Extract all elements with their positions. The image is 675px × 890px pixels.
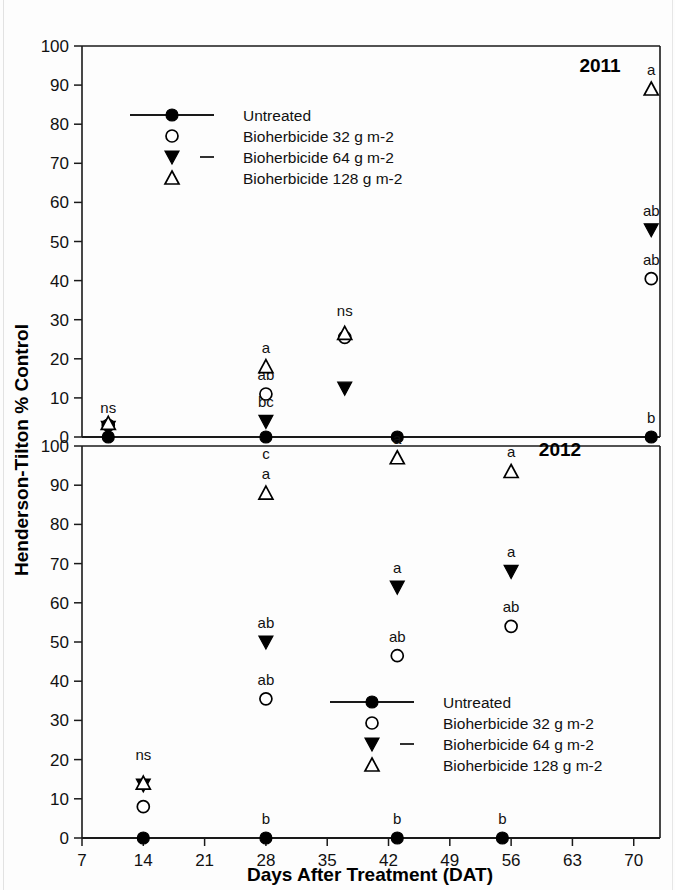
x-tick-label: 49 [440,851,459,870]
data-point [504,464,518,477]
significance-letter: ab [389,628,406,645]
x-tick-label: 28 [256,851,275,870]
data-point [645,273,657,285]
significance-letter: ab [643,202,660,219]
y-tick-label: 50 [50,233,69,252]
legend-item: Bioherbicide 128 g m-2 [165,170,402,187]
y-tick-label: 100 [41,37,69,56]
significance-letter: a [262,465,271,482]
panel-year-label-bottom: 2012 [539,439,581,460]
y-tick-label: 20 [50,751,69,770]
x-tick-label: 63 [563,851,582,870]
data-point [137,801,149,813]
significance-letter: ab [258,671,275,688]
y-tick-label: 70 [50,154,69,173]
legend-marker-open-circle [166,130,178,142]
legend-marker-open-circle [366,717,378,729]
legend-label: Bioherbicide 64 g m-2 [443,736,594,753]
data-point [260,832,272,844]
legend-marker-filled-circle [366,696,378,708]
data-point [644,224,658,237]
svg-text:Henderson-Tilton % Control: Henderson-Tilton % Control [11,324,32,576]
significance-letter: a [507,443,516,460]
y-tick-label: 10 [50,389,69,408]
legend-marker-open-triangle [165,171,179,184]
figure-right-border [672,0,673,890]
significance-letter: a [262,339,271,356]
x-tick-label: 42 [379,851,398,870]
legend-label: Untreated [243,107,311,124]
data-point [259,486,273,499]
significance-letter: c [262,445,270,462]
y-tick-label: 60 [50,193,69,212]
legend-item: Bioherbicide 64 g m-2 [165,149,394,166]
legend-item: Bioherbicide 32 g m-2 [166,128,394,145]
y-tick-label: 90 [50,76,69,95]
x-tick-label: 7 [77,851,86,870]
x-tick-label: 21 [195,851,214,870]
significance-letter: b [262,810,270,827]
data-point [645,431,657,443]
x-tick-label: 35 [318,851,337,870]
legend-marker-filled-triangle [165,151,179,164]
data-point [505,620,517,632]
legend-label: Untreated [443,694,511,711]
significance-letter: a [393,559,402,576]
legend-2012: UntreatedBioherbicide 32 g m-2Bioherbici… [330,694,602,774]
legend-item: Untreated [330,694,511,711]
figure-canvas: Henderson-Tilton % Control Days After Tr… [0,0,675,890]
group-annotation: ns [100,399,116,416]
y-tick-label: 30 [50,711,69,730]
significance-letter: a [647,61,656,78]
y-tick-label: 60 [50,594,69,613]
data-point [260,431,272,443]
legend-label: Bioherbicide 32 g m-2 [443,715,594,732]
legend-item: Bioherbicide 128 g m-2 [365,757,602,774]
y-tick-label: 80 [50,115,69,134]
data-point [260,693,272,705]
figure-left-border [3,0,4,890]
panel-year-label-top: 2011 [579,55,621,76]
scatter-chart: Henderson-Tilton % Control Days After Tr… [0,0,675,890]
x-tick-label: 14 [134,851,153,870]
y-tick-label: 10 [50,790,69,809]
y-tick-label: 100 [41,437,69,456]
data-point [391,832,403,844]
y-tick-label: 90 [50,476,69,495]
y-tick-label: 40 [50,272,69,291]
significance-letter: a [507,543,516,560]
legend-marker-filled-triangle [365,738,379,751]
legend-2011: UntreatedBioherbicide 32 g m-2Bioherbici… [130,107,402,187]
panel-2012: 0102030405060708090100714212835424956637… [41,430,660,870]
legend-item: Untreated [130,107,311,124]
data-point [496,832,508,844]
data-point [259,415,273,428]
significance-letter: b [393,810,401,827]
y-tick-label: 0 [60,829,69,848]
x-tick-label: 56 [502,851,521,870]
significance-letter: ab [643,251,660,268]
data-point [644,82,658,95]
data-point [338,382,352,395]
significance-letter: bc [258,393,274,410]
legend-item: Bioherbicide 32 g m-2 [366,715,594,732]
data-point [391,650,403,662]
legend-label: Bioherbicide 32 g m-2 [243,128,394,145]
significance-letter: ab [503,598,520,615]
y-tick-label: 40 [50,672,69,691]
group-annotation: ns [337,302,353,319]
significance-letter: ab [258,614,275,631]
y-tick-label: 50 [50,633,69,652]
data-point [259,636,273,649]
legend-marker-filled-circle [166,109,178,121]
legend-marker-open-triangle [365,758,379,771]
data-point [504,565,518,578]
legend-label: Bioherbicide 128 g m-2 [243,170,402,187]
significance-letter: b [647,409,655,426]
group-annotation: ns [135,746,151,763]
significance-letter: a [393,430,402,447]
legend-label: Bioherbicide 64 g m-2 [243,149,394,166]
x-tick-label: 70 [624,851,643,870]
y-tick-label: 70 [50,555,69,574]
y-tick-label: 30 [50,311,69,330]
